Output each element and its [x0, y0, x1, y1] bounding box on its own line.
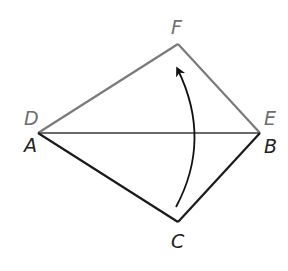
label-e: E	[264, 107, 276, 129]
label-a: A	[22, 134, 37, 156]
label-d: D	[24, 107, 39, 129]
reflection-arrow	[176, 70, 195, 207]
triangle-def	[38, 44, 260, 133]
segment-cb	[178, 133, 260, 222]
reflection-diagram: D A F E B C	[0, 0, 288, 271]
label-f: F	[171, 16, 183, 38]
segment-ac	[38, 133, 178, 222]
label-b: B	[264, 135, 277, 157]
label-c: C	[171, 230, 185, 252]
segment-df	[38, 44, 178, 133]
segment-fe	[178, 44, 260, 133]
triangle-abc	[38, 133, 260, 222]
